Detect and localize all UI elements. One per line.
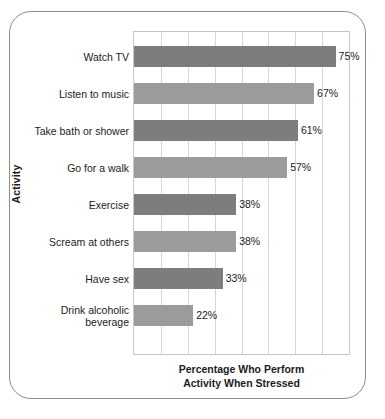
bar-row: Have sex33% [134,260,349,297]
bar-row: Take bath or shower61% [134,112,349,149]
bar-value-label: 33% [223,268,247,289]
bar-series: Watch TV75%Listen to music67%Take bath o… [134,32,349,354]
bar [134,231,236,252]
bar-row: Exercise38% [134,186,349,223]
bar-value-label: 22% [193,305,217,326]
bar [134,157,287,178]
plot-area: Watch TV75%Listen to music67%Take bath o… [133,31,350,355]
bar-value-label: 38% [236,231,260,252]
category-label: Take bath or shower [4,120,129,141]
bar-row: Listen to music67% [134,75,349,112]
bar-chart-figure: Activity Watch TV75%Listen to music67%Ta… [0,0,385,419]
bar-row: Go for a walk57% [134,149,349,186]
category-label: Exercise [4,194,129,215]
bar-row: Drink alcoholic beverage22% [134,297,349,334]
category-label: Drink alcoholic beverage [4,305,129,326]
bar-row: Scream at others38% [134,223,349,260]
category-label: Scream at others [4,231,129,252]
category-label: Go for a walk [4,157,129,178]
bar-value-label: 57% [287,157,311,178]
bar-value-label: 67% [314,83,338,104]
bar-row: Watch TV75% [134,38,349,75]
bar [134,83,314,104]
bar [134,194,236,215]
x-axis-title: Percentage Who Perform Activity When Str… [133,362,350,390]
bar-value-label: 61% [298,120,322,141]
category-label: Have sex [4,268,129,289]
bar [134,46,336,67]
bar [134,120,298,141]
category-label: Listen to music [4,83,129,104]
bar [134,305,193,326]
bar-value-label: 75% [336,46,360,67]
bar [134,268,223,289]
category-label: Watch TV [4,46,129,67]
bar-value-label: 38% [236,194,260,215]
